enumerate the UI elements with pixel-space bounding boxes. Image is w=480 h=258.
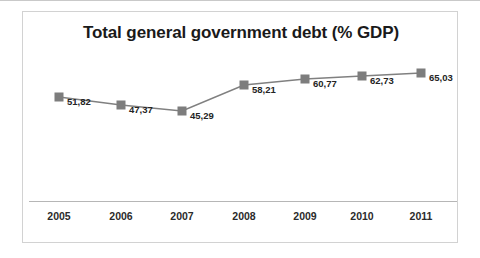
data-point-marker bbox=[178, 107, 187, 116]
scan-edge-line bbox=[0, 0, 480, 1]
x-axis-label-2008: 2008 bbox=[214, 210, 274, 222]
x-axis-label-2007: 2007 bbox=[152, 210, 212, 222]
data-point-label: 65,03 bbox=[429, 72, 453, 83]
x-axis-label-group: 2005200620072008200920102011 bbox=[23, 210, 459, 232]
data-point-marker bbox=[240, 81, 249, 90]
series-line bbox=[59, 73, 421, 111]
data-point-marker bbox=[55, 93, 64, 102]
chart-screenshot: Total general government debt (% GDP) 51… bbox=[0, 0, 480, 258]
x-axis-label-2006: 2006 bbox=[91, 210, 151, 222]
data-point-marker bbox=[417, 69, 426, 78]
data-point-label: 47,37 bbox=[129, 104, 153, 115]
data-point-label: 58,21 bbox=[252, 84, 276, 95]
data-point-label: 60,77 bbox=[313, 78, 337, 89]
x-axis-label-2005: 2005 bbox=[29, 210, 89, 222]
data-point-marker bbox=[301, 75, 310, 84]
plot-area: 51,8247,3745,2958,2160,7762,7365,03 2005… bbox=[23, 12, 459, 244]
x-axis-label-2011: 2011 bbox=[391, 210, 451, 222]
data-point-label: 45,29 bbox=[190, 110, 214, 121]
x-axis-label-2009: 2009 bbox=[275, 210, 335, 222]
data-point-label: 62,73 bbox=[370, 75, 394, 86]
x-axis-line bbox=[29, 201, 457, 202]
chart-frame: Total general government debt (% GDP) 51… bbox=[22, 11, 458, 243]
data-point-label: 51,82 bbox=[67, 96, 91, 107]
x-axis-label-2010: 2010 bbox=[332, 210, 392, 222]
data-point-marker bbox=[358, 72, 367, 81]
data-point-marker bbox=[117, 101, 126, 110]
